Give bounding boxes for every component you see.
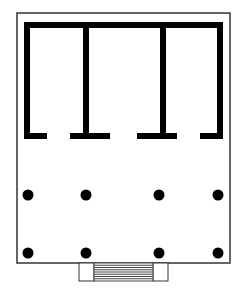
wall-foot-4 (200, 133, 223, 139)
platform-outline (17, 13, 230, 263)
wall-foot-1 (24, 133, 47, 139)
cella-walls (24, 22, 223, 139)
column-2-3 (154, 248, 165, 259)
wall-foot-2 (70, 133, 110, 139)
column-1-3 (154, 190, 165, 201)
column-2-1 (23, 248, 34, 259)
entrance-stairs (79, 263, 168, 281)
wall-top (24, 22, 223, 28)
column-grid (23, 190, 224, 259)
partition-wall-2 (160, 22, 166, 139)
stair-cheek-left (79, 263, 94, 281)
wall-right (217, 22, 223, 139)
column-1-4 (213, 190, 224, 201)
stair-cheek-right (153, 263, 168, 281)
column-1-2 (81, 190, 92, 201)
floor-plan (0, 0, 241, 297)
column-2-4 (213, 248, 224, 259)
wall-left (24, 22, 30, 139)
column-2-2 (81, 248, 92, 259)
column-1-1 (23, 190, 34, 201)
wall-foot-3 (137, 133, 177, 139)
partition-wall-1 (83, 22, 89, 139)
